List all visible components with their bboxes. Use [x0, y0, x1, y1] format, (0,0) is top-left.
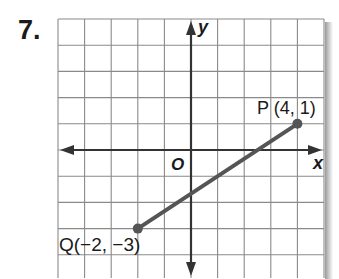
point-q-label: Q(−2, −3)	[59, 234, 140, 255]
point-p-dot	[292, 119, 302, 129]
x-axis-left-arrow-icon	[60, 145, 74, 155]
point-q-dot	[133, 224, 143, 234]
origin-label: O	[171, 155, 184, 174]
y-axis-up-arrow-icon	[186, 21, 196, 35]
y-axis-down-arrow-icon	[186, 262, 196, 276]
x-axis-label: x	[312, 153, 324, 173]
coordinate-graph: y x O P (4, 1) Q(−2, −3)	[0, 0, 339, 279]
point-p-label: P (4, 1)	[257, 98, 316, 118]
grid-shadow	[325, 22, 333, 279]
y-axis-label: y	[197, 17, 209, 37]
